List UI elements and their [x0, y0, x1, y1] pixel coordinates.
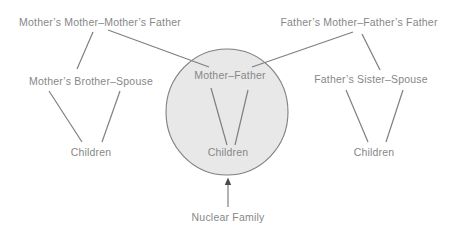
node-parents: Mother–Father — [194, 69, 265, 82]
node-paternal-grandparents: Father’s Mother–Father’s Father — [280, 16, 437, 29]
node-maternal-uncle-couple: Mother’s Brother–Spouse — [29, 75, 153, 88]
caption-nuclear-family: Nuclear Family — [192, 211, 265, 224]
edge-uncle-to-children-left-b — [102, 91, 120, 142]
edge-maternal-grandparents-to-uncle — [77, 32, 93, 69]
node-paternal-aunt-couple: Father’s Sister–Spouse — [314, 73, 428, 86]
node-maternal-grandparents: Mother’s Mother–Mother’s Father — [19, 16, 181, 29]
edge-aunt-to-children-right-b — [386, 90, 403, 142]
edge-uncle-to-children-left-a — [49, 91, 82, 142]
node-children-right: Children — [354, 146, 395, 159]
node-children-left: Children — [71, 146, 112, 159]
node-children-center: Children — [208, 146, 249, 159]
edge-paternal-grandparents-to-parents — [252, 32, 353, 67]
diagram-canvas — [0, 0, 451, 233]
edge-maternal-grandparents-to-parents — [108, 30, 209, 67]
kinship-diagram: Mother’s Mother–Mother’s Father Father’s… — [0, 0, 451, 233]
caption-arrowhead-icon — [225, 178, 231, 186]
edge-aunt-to-children-right-a — [346, 90, 368, 142]
edge-paternal-grandparents-to-aunt — [362, 34, 380, 70]
